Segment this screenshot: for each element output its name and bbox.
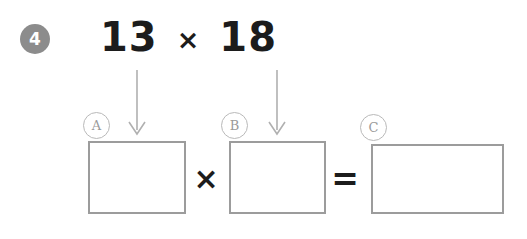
down-arrow-icon (266, 70, 288, 136)
answer-box-c[interactable] (371, 144, 504, 214)
problem-statement: 13 × 18 (100, 11, 277, 63)
multiplication-sign: × (177, 26, 201, 53)
equation-multiplication-sign: × (190, 163, 222, 195)
down-arrow-icon (126, 70, 148, 136)
answer-box-b[interactable] (229, 141, 326, 214)
box-label-c: C (360, 114, 387, 141)
answer-box-a[interactable] (88, 141, 186, 214)
worksheet-problem-4: 4 13 × 18 A B C × = (0, 0, 527, 239)
equation-equals-sign: = (328, 161, 362, 195)
question-number-badge: 4 (20, 24, 50, 54)
left-operand: 13 (100, 17, 158, 57)
box-label-b: B (221, 112, 248, 139)
box-label-a: A (83, 112, 110, 139)
right-operand: 18 (219, 17, 277, 57)
